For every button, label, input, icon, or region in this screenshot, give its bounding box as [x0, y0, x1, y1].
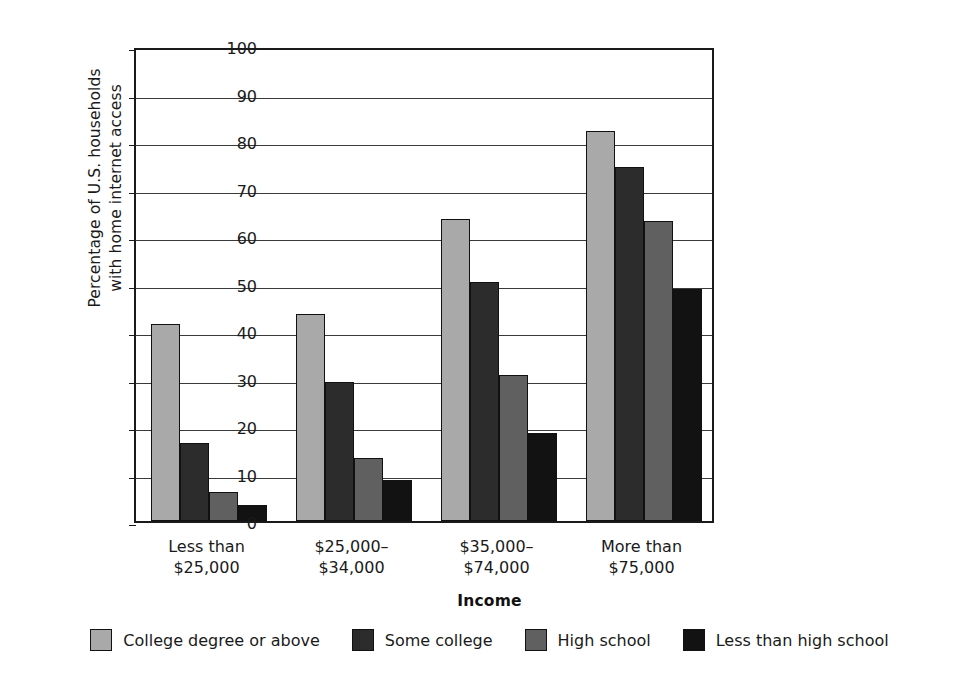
chart-legend: College degree or aboveSome collegeHigh …: [0, 629, 979, 651]
y-axis-tick-label: 80: [197, 134, 257, 153]
legend-item[interactable]: High school: [525, 629, 651, 651]
bar-group: [441, 50, 557, 521]
y-axis-tick-label: 20: [197, 419, 257, 438]
y-axis-tick-label: 100: [197, 39, 257, 58]
y-axis-tick-label: 0: [197, 514, 257, 533]
legend-swatch-icon: [683, 629, 705, 651]
y-axis-tick: [129, 288, 136, 289]
bar: [644, 221, 673, 521]
y-axis-title-line-2: with home internet access: [106, 0, 127, 398]
legend-item[interactable]: College degree or above: [90, 629, 319, 651]
y-axis-tick: [129, 145, 136, 146]
legend-item[interactable]: Some college: [352, 629, 493, 651]
legend-item[interactable]: Less than high school: [683, 629, 889, 651]
y-axis-tick: [129, 50, 136, 51]
y-axis-title: Percentage of U.S. households with home …: [85, 0, 125, 398]
bar-group: [296, 50, 412, 521]
y-axis-tick-label: 70: [197, 181, 257, 200]
legend-item-label: High school: [558, 631, 651, 650]
bar: [151, 324, 180, 521]
y-axis-tick-label: 40: [197, 324, 257, 343]
bar: [615, 167, 644, 521]
legend-item-label: College degree or above: [123, 631, 319, 650]
bar: [528, 433, 557, 521]
bar-group: [586, 50, 702, 521]
bar: [499, 375, 528, 521]
y-axis-tick-label: 10: [197, 466, 257, 485]
y-axis-tick: [129, 335, 136, 336]
y-axis-tick: [129, 430, 136, 431]
y-axis-tick: [129, 193, 136, 194]
y-axis-tick: [129, 240, 136, 241]
y-axis-tick: [129, 525, 136, 526]
bar: [354, 458, 383, 521]
y-axis-tick: [129, 383, 136, 384]
bar: [325, 382, 354, 521]
bar: [470, 282, 499, 521]
legend-swatch-icon: [352, 629, 374, 651]
y-axis-tick: [129, 478, 136, 479]
y-axis-tick-label: 30: [197, 371, 257, 390]
bar: [586, 131, 615, 521]
y-axis-tick-label: 50: [197, 276, 257, 295]
legend-swatch-icon: [525, 629, 547, 651]
legend-item-label: Some college: [385, 631, 493, 650]
x-axis-category-label-line: $75,000: [557, 557, 727, 578]
legend-swatch-icon: [90, 629, 112, 651]
legend-item-label: Less than high school: [716, 631, 889, 650]
y-axis-tick: [129, 98, 136, 99]
x-axis-category-label: More than$75,000: [557, 536, 727, 578]
y-axis-title-line-1: Percentage of U.S. households: [85, 0, 106, 398]
bar: [296, 314, 325, 521]
bar: [383, 480, 412, 521]
y-axis-tick-label: 60: [197, 229, 257, 248]
x-axis-category-label-line: More than: [557, 536, 727, 557]
bar: [673, 289, 702, 521]
bar: [441, 219, 470, 521]
bar-chart: Percentage of U.S. households with home …: [0, 0, 979, 691]
y-axis-tick-label: 90: [197, 86, 257, 105]
x-axis-title: Income: [0, 592, 979, 610]
